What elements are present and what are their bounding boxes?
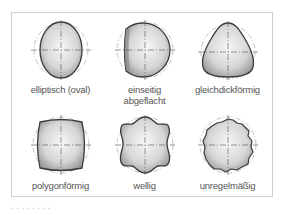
shape-polygon: polygonförmig [17, 114, 104, 191]
constant-width-shape-icon [193, 19, 263, 81]
label-line-1: einseitig [101, 84, 188, 95]
wavy-shape-icon [110, 114, 180, 176]
label-line-2: abgeflacht [101, 95, 188, 106]
faint-caption-line: ▪ ▪ ▪ ▪ ▪ ▪ ▪ ▪ [12, 205, 51, 211]
irregular-shape-icon [193, 114, 263, 176]
label-gleichdick: gleichdickförmig [184, 84, 271, 95]
label-polygon: polygonförmig [17, 180, 104, 191]
shape-einseitig-abgeflacht: einseitig abgeflacht [101, 19, 188, 106]
label-elliptisch: elliptisch (oval) [17, 84, 104, 95]
label-einseitig-abgeflacht: einseitig abgeflacht [101, 84, 188, 106]
shape-wellig: wellig [101, 114, 188, 191]
figure-frame: elliptisch (oval) einseitig abgeflacht g… [11, 12, 273, 197]
label-unregelmaessig: unregelmäßig [184, 180, 271, 191]
shape-gleichdick: gleichdickförmig [184, 19, 271, 95]
polygonal-shape-icon [26, 114, 96, 176]
elliptical-shape-icon [26, 19, 96, 81]
label-wellig: wellig [101, 180, 188, 191]
flattened-shape-icon [110, 19, 180, 81]
shape-unregelmaessig: unregelmäßig [184, 114, 271, 191]
shape-elliptisch: elliptisch (oval) [17, 19, 104, 95]
